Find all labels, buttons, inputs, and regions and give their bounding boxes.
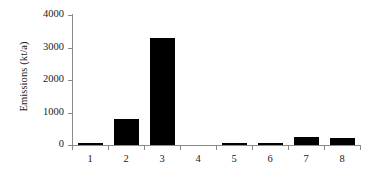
y-tick-label: 2000 xyxy=(4,74,64,85)
bar xyxy=(222,143,247,145)
y-tick-label: 1000 xyxy=(4,107,64,118)
x-tick-label: 3 xyxy=(144,154,180,165)
x-tick-mark xyxy=(216,146,217,150)
bar-chart-figure: Emissions (kt/a) 01000200030004000 12345… xyxy=(0,0,373,179)
bar xyxy=(330,138,355,145)
x-tick-mark xyxy=(180,146,181,150)
x-tick-label: 1 xyxy=(72,154,108,165)
bar xyxy=(78,143,103,145)
x-tick-mark xyxy=(288,146,289,150)
bar xyxy=(114,119,139,145)
x-tick-mark xyxy=(144,146,145,150)
x-tick-label: 6 xyxy=(252,154,288,165)
bar xyxy=(150,38,175,145)
x-tick-label: 5 xyxy=(216,154,252,165)
x-tick-mark xyxy=(72,146,73,150)
y-tick-label: 0 xyxy=(4,139,64,150)
bar xyxy=(258,143,283,145)
x-tick-mark xyxy=(108,146,109,150)
y-tick-label: 4000 xyxy=(4,9,64,20)
x-tick-mark xyxy=(360,146,361,150)
x-tick-label: 8 xyxy=(324,154,360,165)
y-tick-label: 3000 xyxy=(4,42,64,53)
x-tick-label: 7 xyxy=(288,154,324,165)
bars-layer xyxy=(72,15,360,145)
x-tick-label: 2 xyxy=(108,154,144,165)
x-tick-mark xyxy=(324,146,325,150)
bar xyxy=(294,137,319,145)
x-tick-mark xyxy=(252,146,253,150)
x-tick-label: 4 xyxy=(180,154,216,165)
